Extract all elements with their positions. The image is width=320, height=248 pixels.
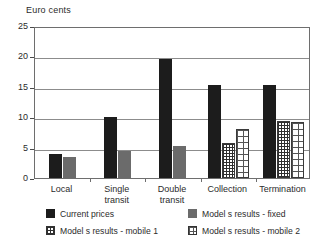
bar-fixed [63, 157, 76, 178]
x-axis-category-label: Collection [200, 184, 255, 195]
legend-item-mobile2[interactable]: Model s results - mobile 2 [188, 226, 314, 236]
legend-item-label: Current prices [60, 209, 114, 219]
legend-swatch-icon [46, 209, 55, 218]
legend-swatch-icon [188, 226, 197, 235]
bar-chart: Euro cents 0510152025 LocalSingle transi… [0, 0, 320, 248]
y-axis-tick-mark [30, 149, 34, 150]
legend-item-current[interactable]: Current prices [46, 209, 188, 219]
legend-swatch-icon [46, 226, 55, 235]
legend-item-mobile1[interactable]: Model s results - mobile 1 [46, 226, 188, 236]
x-axis-category-label: Local [34, 184, 89, 195]
y-axis-tick-label: 5 [4, 143, 28, 153]
bar-current [49, 154, 62, 178]
y-axis-tick-mark [30, 118, 34, 119]
x-axis-category-label: Single transit [89, 184, 144, 206]
x-axis-tick-mark [90, 178, 91, 182]
chart-legend: Current pricesModel s results - fixedMod… [46, 205, 314, 239]
plot-area [34, 27, 310, 179]
y-axis-tick-mark [30, 179, 34, 180]
bar-group [201, 28, 256, 178]
bar-group-bars [145, 28, 200, 178]
bar-current [159, 59, 172, 178]
bar-group [145, 28, 200, 178]
y-axis-tick-label: 25 [4, 21, 28, 31]
bar-group [90, 28, 145, 178]
y-axis-tick-mark [30, 27, 34, 28]
x-axis-tick-mark [201, 178, 202, 182]
y-axis-title: Euro cents [26, 5, 71, 15]
bar-mobile2 [291, 122, 304, 178]
bar-group [256, 28, 311, 178]
bar-group-bars [90, 28, 145, 178]
bar-mobile2 [236, 129, 249, 178]
legend-item-fixed[interactable]: Model s results - fixed [188, 209, 314, 219]
bar-mobile1 [222, 143, 235, 178]
legend-item-label: Model s results - mobile 2 [202, 226, 300, 236]
x-axis-category-label: Double transit [144, 184, 199, 206]
legend-item-label: Model s results - fixed [202, 209, 286, 219]
y-axis-tick-label: 10 [4, 112, 28, 122]
bar-group-bars [256, 28, 311, 178]
bar-group-bars [201, 28, 256, 178]
y-axis-tick-mark [30, 57, 34, 58]
legend-item-label: Model s results - mobile 1 [60, 226, 158, 236]
y-axis-tick-label: 20 [4, 51, 28, 61]
bar-fixed [118, 151, 131, 178]
y-axis-tick-label: 0 [4, 173, 28, 183]
bar-mobile1 [277, 121, 290, 178]
x-axis-category-label: Termination [255, 184, 310, 195]
legend-swatch-icon [188, 209, 197, 218]
y-axis-tick-mark [30, 88, 34, 89]
bar-current [104, 117, 117, 178]
y-axis-tick-label: 15 [4, 82, 28, 92]
x-axis-tick-mark [145, 178, 146, 182]
bar-group-bars [35, 28, 90, 178]
x-axis-tick-mark [256, 178, 257, 182]
bar-current [263, 85, 276, 178]
bar-current [208, 85, 221, 178]
bar-fixed [173, 146, 186, 178]
bar-group [35, 28, 90, 178]
